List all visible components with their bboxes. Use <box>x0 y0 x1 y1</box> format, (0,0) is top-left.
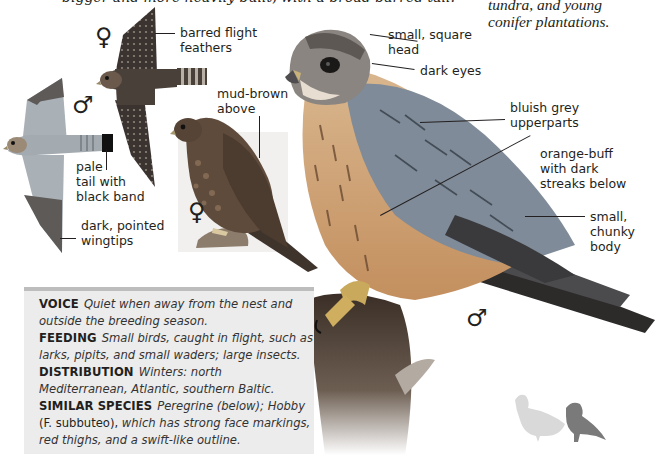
male-symbol: ♂ <box>72 93 94 117</box>
info-value-scientific-name: (F. subbuteo), <box>39 416 118 430</box>
label-mud-brown-above: mud-brown above <box>217 86 288 116</box>
info-voice: VOICEQuiet when away from the nest and o… <box>39 296 314 330</box>
leader-line <box>60 238 76 239</box>
label-bluish-grey-upperparts: bluish grey upperparts <box>510 100 579 130</box>
label-barred-flight-feathers: barred flight feathers <box>180 25 257 55</box>
pigeon-silhouette-icon <box>515 395 565 442</box>
species-info-box: VOICEQuiet when away from the nest and o… <box>24 287 314 454</box>
info-key-voice: VOICE <box>39 297 79 311</box>
female-symbol: ♀ <box>95 25 113 49</box>
merlin-silhouette-icon <box>566 403 606 442</box>
habitat-line-1: tundra, and young <box>488 0 609 13</box>
label-small-chunky-body: small, chunky body <box>590 209 635 254</box>
label-dark-wingtips: dark, pointed wingtips <box>81 218 164 248</box>
label-pale-tail: pale tail with black band <box>76 159 145 204</box>
leader-line <box>259 116 260 158</box>
info-key-similar-species: SIMILAR SPECIES <box>39 399 152 413</box>
size-comparison-silhouettes <box>510 390 610 450</box>
info-distribution: DISTRIBUTIONWinters: north Mediterranean… <box>39 364 314 398</box>
label-orange-buff-underparts: orange-buff with dark streaks below <box>540 146 626 191</box>
leader-line <box>155 33 175 34</box>
info-key-distribution: DISTRIBUTION <box>39 365 134 379</box>
label-dark-eyes: dark eyes <box>420 63 481 78</box>
female-symbol: ♀ <box>188 200 206 224</box>
info-similar-species: SIMILAR SPECIESPeregrine (below); Hobby … <box>39 398 314 449</box>
label-small-square-head: small, square head <box>388 27 472 57</box>
leader-line <box>525 216 585 217</box>
info-key-feeding: FEEDING <box>39 331 97 345</box>
male-symbol: ♂ <box>466 306 488 330</box>
info-feeding: FEEDINGSmall birds, caught in flight, su… <box>39 330 314 364</box>
info-value-similar-species-1: Peregrine (below); Hobby <box>157 399 305 413</box>
